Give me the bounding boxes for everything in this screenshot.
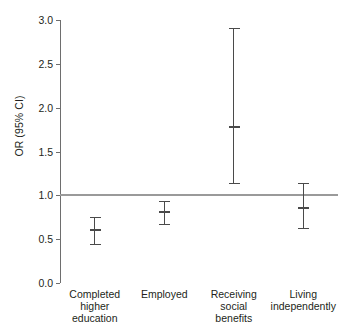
forest-plot-figure: OR (95% CI) 3.02.52.01.51.00.50.0 Comple…	[0, 0, 343, 335]
y-tick-mark	[56, 239, 60, 240]
errorbar-cap-upper	[90, 217, 101, 218]
x-axis-label-line: independently	[269, 300, 339, 312]
x-axis-label: Receivingsocialbenefits	[199, 288, 269, 325]
x-axis-label-line: social	[199, 300, 269, 312]
errorbar-point-estimate	[90, 229, 101, 231]
y-tick-mark	[56, 20, 60, 21]
errorbar-point-estimate	[229, 126, 240, 128]
y-tick-label: 1.5	[38, 146, 53, 157]
y-tick-mark	[56, 64, 60, 65]
errorbar-cap-upper	[298, 183, 309, 184]
errorbar-line	[303, 183, 304, 228]
x-axis-label-line: Employed	[130, 288, 200, 300]
y-tick-label: 0.0	[38, 278, 53, 289]
reference-line-or-1	[60, 194, 338, 196]
x-axis-label: Completedhighereducation	[60, 288, 130, 325]
x-axis-label-line: education	[60, 312, 130, 324]
x-axis-label-line: Completed	[60, 288, 130, 300]
y-tick-label: 2.0	[38, 102, 53, 113]
errorbar-cap-lower	[159, 224, 170, 225]
x-axis-label: Livingindependently	[269, 288, 339, 312]
y-tick-mark	[56, 283, 60, 284]
y-tick-label: 3.0	[38, 15, 53, 26]
x-axis-label: Employed	[130, 288, 200, 300]
plot-area: 3.02.52.01.51.00.50.0	[60, 20, 338, 283]
y-axis-title: OR (95% CI)	[13, 71, 25, 181]
x-axis-label-line: Receiving	[199, 288, 269, 300]
errorbar-cap-lower	[298, 228, 309, 229]
y-tick-mark	[56, 152, 60, 153]
x-axis-label-line: benefits	[199, 312, 269, 324]
errorbar-point-estimate	[159, 211, 170, 213]
y-axis-line	[60, 20, 61, 283]
errorbar-cap-upper	[229, 28, 240, 29]
y-tick-mark	[56, 108, 60, 109]
x-axis-label-line: higher	[60, 300, 130, 312]
errorbar-cap-lower	[229, 183, 240, 184]
x-axis-label-line: Living	[269, 288, 339, 300]
y-tick-label: 0.5	[38, 234, 53, 245]
errorbar-cap-lower	[90, 244, 101, 245]
x-axis-labels: CompletedhighereducationEmployedReceivin…	[60, 288, 338, 333]
errorbar-line	[233, 28, 234, 183]
errorbar-point-estimate	[298, 207, 309, 209]
y-tick-label: 2.5	[38, 59, 53, 70]
y-tick-label: 1.0	[38, 190, 53, 201]
errorbar-cap-upper	[159, 201, 170, 202]
